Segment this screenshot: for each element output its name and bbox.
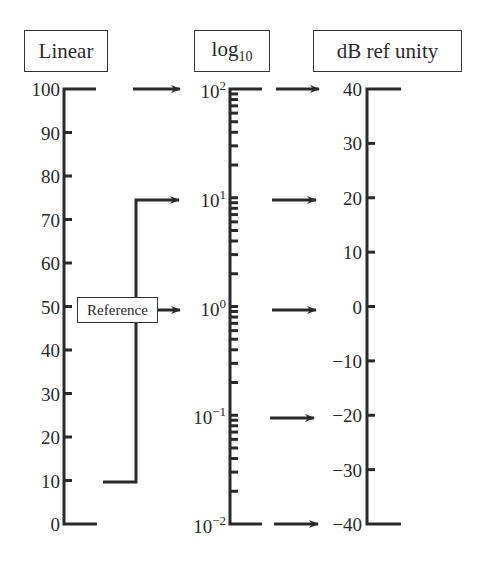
- tick-label: 20: [343, 189, 362, 209]
- tick-label: 101: [201, 191, 227, 211]
- reference-box: Reference: [77, 297, 158, 323]
- mapping-arrows: [133, 89, 319, 524]
- tick-label: −30: [332, 461, 362, 481]
- tick-label: 40: [343, 80, 362, 100]
- tick-label: 90: [41, 124, 60, 144]
- db-axis: [367, 89, 401, 524]
- log-axis: [230, 89, 262, 524]
- tick-label: −20: [332, 406, 362, 426]
- tick-label: 10: [41, 472, 60, 492]
- tick-label: 0: [353, 298, 363, 318]
- tick-label: 30: [343, 134, 362, 154]
- tick-label: 80: [41, 167, 60, 187]
- tick-label: 100: [201, 300, 227, 320]
- tick-label: 0: [51, 515, 61, 535]
- tick-label: 10−2: [193, 517, 226, 537]
- reference-bracket: [103, 200, 179, 482]
- tick-label: 30: [41, 385, 60, 405]
- tick-label: 70: [41, 211, 60, 231]
- tick-label: −40: [332, 515, 362, 535]
- reference-label: Reference: [87, 302, 148, 319]
- tick-label: −10: [332, 352, 362, 372]
- tick-label: 102: [201, 82, 227, 102]
- tick-label: 50: [41, 298, 60, 318]
- tick-label: 100: [32, 80, 61, 100]
- scale-diagram: [0, 0, 486, 563]
- tick-label: 20: [41, 428, 60, 448]
- tick-label: 10−1: [193, 408, 226, 428]
- tick-label: 60: [41, 254, 60, 274]
- tick-label: 10: [343, 243, 362, 263]
- tick-label: 40: [41, 341, 60, 361]
